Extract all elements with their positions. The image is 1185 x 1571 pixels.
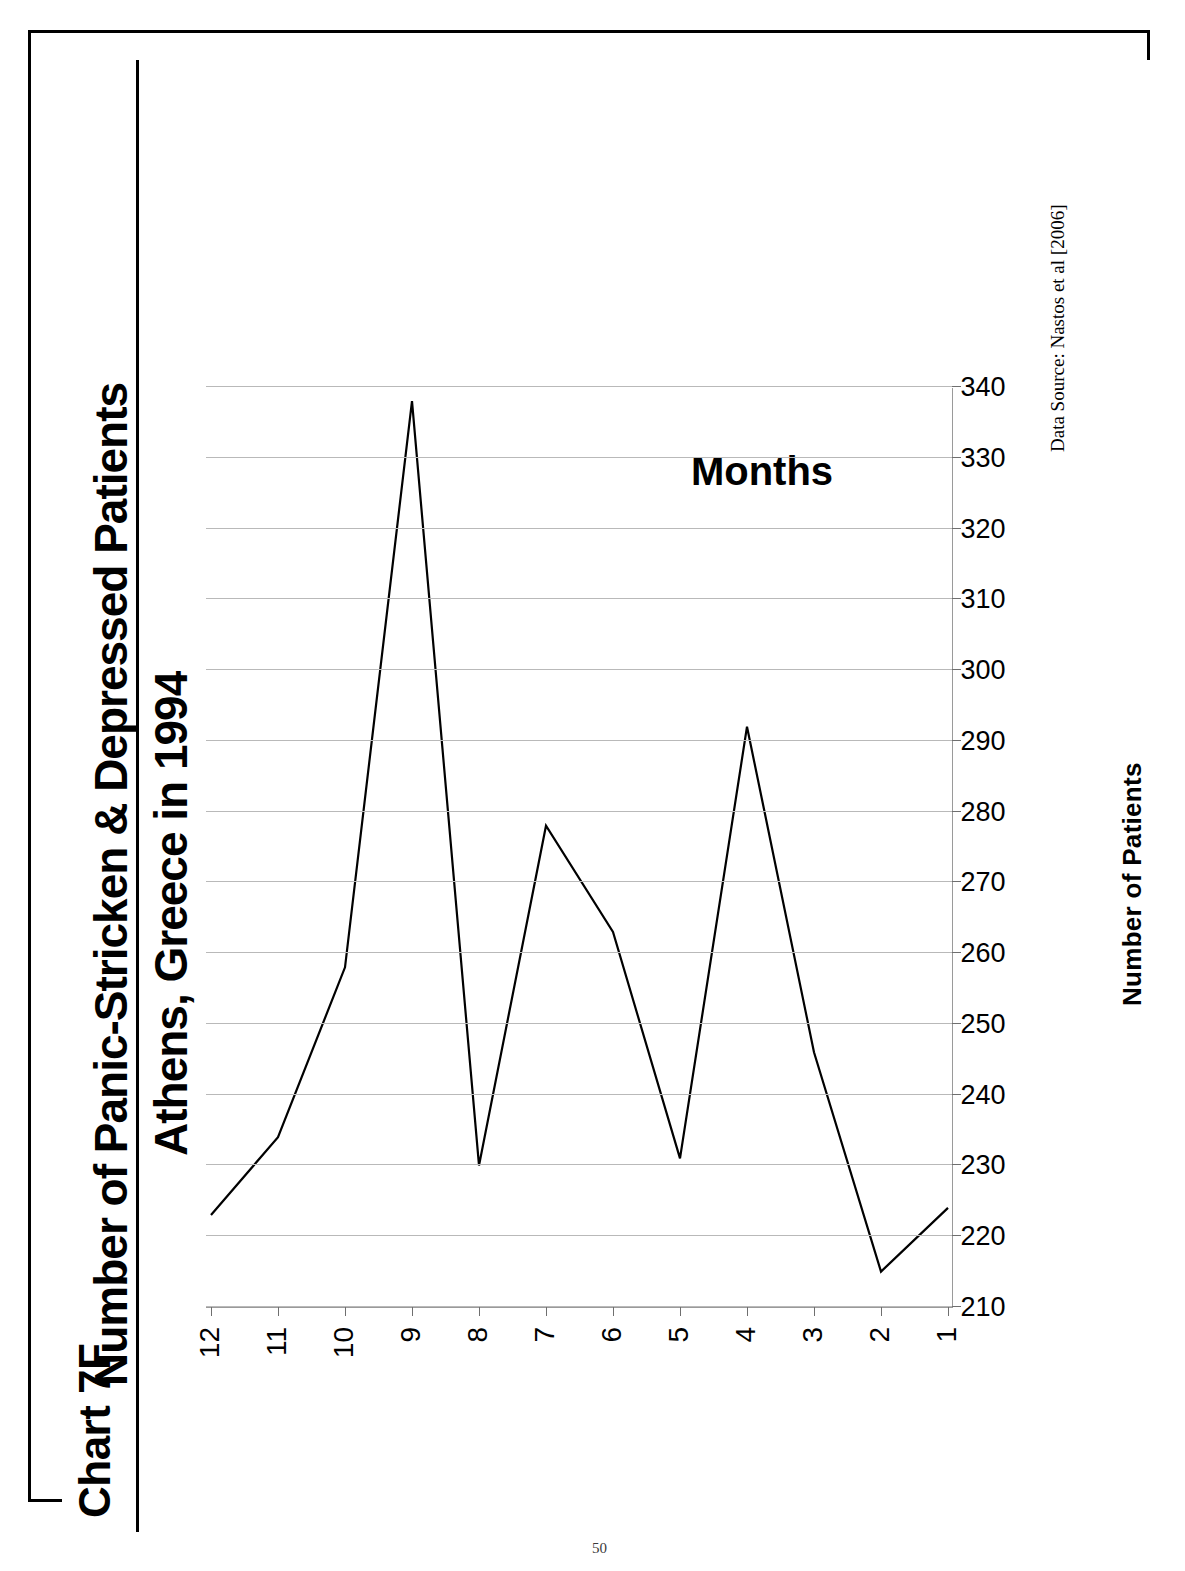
page-border: Chart 7F Number of Panic-Stricken & Depr… bbox=[28, 30, 1150, 1502]
y-axis-tick-label: 220 bbox=[961, 1221, 1005, 1252]
gridline-value-270 bbox=[206, 881, 952, 882]
tick-month-5 bbox=[680, 1307, 681, 1316]
x-axis-tick-label: 10 bbox=[328, 1327, 360, 1369]
tick-month-12 bbox=[211, 1307, 212, 1316]
gridline-value-240 bbox=[206, 1094, 952, 1095]
y-axis-tick-label: 280 bbox=[961, 796, 1005, 827]
y-axis-title: Number of Patients bbox=[1117, 762, 1148, 1006]
x-axis-tick-label: 4 bbox=[730, 1327, 762, 1369]
tick-month-2 bbox=[881, 1307, 882, 1316]
gridline-value-340 bbox=[206, 386, 952, 387]
tick-month-11 bbox=[278, 1307, 279, 1316]
gridline-value-210 bbox=[206, 1306, 952, 1307]
chart-subtitle: Athens, Greece in 1994 bbox=[144, 672, 198, 1156]
plot-area: 2102202302402502602702802903003103203303… bbox=[206, 388, 953, 1308]
gridline-value-300 bbox=[206, 669, 952, 670]
gridline-value-330 bbox=[206, 457, 952, 458]
gridline-value-280 bbox=[206, 811, 952, 812]
x-axis-tick-label: 8 bbox=[462, 1327, 494, 1369]
chart-title: Number of Panic-Stricken & Depressed Pat… bbox=[84, 383, 138, 1386]
gridline-value-260 bbox=[206, 952, 952, 953]
tick-month-4 bbox=[747, 1307, 748, 1316]
x-axis-tick-label: 7 bbox=[529, 1327, 561, 1369]
x-axis-tick-label: 5 bbox=[663, 1327, 695, 1369]
tick-month-3 bbox=[814, 1307, 815, 1316]
scanned-page: Chart 7F Number of Panic-Stricken & Depr… bbox=[0, 0, 1185, 1571]
x-axis-tick-label: 3 bbox=[797, 1327, 829, 1369]
y-axis-tick-label: 340 bbox=[961, 372, 1005, 403]
x-axis-tick-label: 12 bbox=[194, 1327, 226, 1369]
y-axis-tick-label: 250 bbox=[961, 1008, 1005, 1039]
gridline-value-250 bbox=[206, 1023, 952, 1024]
chart-canvas-rotated: Chart 7F Number of Panic-Stricken & Depr… bbox=[62, 60, 1184, 1532]
x-axis-tick-label: 9 bbox=[395, 1327, 427, 1369]
x-axis-tick-label: 1 bbox=[931, 1327, 963, 1369]
gridline-value-230 bbox=[206, 1164, 952, 1165]
y-axis-tick-label: 300 bbox=[961, 655, 1005, 686]
gridline-value-310 bbox=[206, 598, 952, 599]
tick-month-9 bbox=[412, 1307, 413, 1316]
gridline-value-290 bbox=[206, 740, 952, 741]
tick-month-8 bbox=[479, 1307, 480, 1316]
x-axis-tick-label: 6 bbox=[596, 1327, 628, 1369]
x-axis-tick-label: 2 bbox=[864, 1327, 896, 1369]
tick-month-1 bbox=[948, 1307, 949, 1316]
y-axis-tick-label: 270 bbox=[961, 867, 1005, 898]
y-axis-tick-label: 310 bbox=[961, 584, 1005, 615]
series-line-svg bbox=[206, 387, 953, 1307]
y-axis-tick-label: 240 bbox=[961, 1079, 1005, 1110]
y-axis-tick-label: 230 bbox=[961, 1150, 1005, 1181]
gridline-value-220 bbox=[206, 1235, 952, 1236]
x-axis-tick-label: 11 bbox=[261, 1327, 293, 1369]
gridline-value-320 bbox=[206, 528, 952, 529]
y-axis-tick-label: 330 bbox=[961, 442, 1005, 473]
tick-month-6 bbox=[613, 1307, 614, 1316]
tick-month-10 bbox=[345, 1307, 346, 1316]
y-axis-tick-label: 210 bbox=[961, 1292, 1005, 1323]
series-polyline bbox=[211, 401, 948, 1271]
y-axis-tick-label: 260 bbox=[961, 938, 1005, 969]
page-number: 50 bbox=[592, 1540, 607, 1557]
y-axis-tick-label: 290 bbox=[961, 725, 1005, 756]
data-source-note: Data Source: Nastos et al [2006] bbox=[1047, 205, 1069, 452]
y-axis-tick-label: 320 bbox=[961, 513, 1005, 544]
tick-month-7 bbox=[546, 1307, 547, 1316]
